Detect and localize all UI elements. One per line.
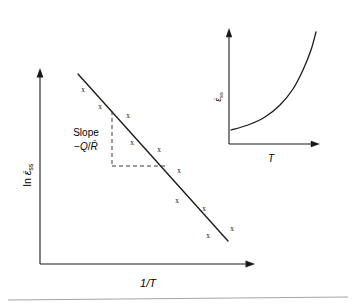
- main-y-axis-label: ln ɛ̇ss: [21, 163, 35, 186]
- inset-plot: ɛ̇ss T: [213, 28, 320, 164]
- inset-exponential-curve: [231, 32, 316, 130]
- inset-x-axis-arrowhead-icon: [311, 141, 320, 147]
- figure-canvas: xxxxxxxxxx ln ɛ̇ss 1/T Slope −Q/R̄ ɛ̇ss …: [0, 0, 354, 308]
- slope-annotation-line2: −Q/R̄: [74, 140, 98, 152]
- main-x-axis-arrowhead-icon: [246, 261, 256, 268]
- slope-triangle: [112, 111, 168, 166]
- data-point-marker: x: [177, 167, 181, 175]
- data-point-marker: x: [175, 197, 179, 205]
- data-point-marker: x: [202, 205, 206, 213]
- data-point-marker: x: [157, 146, 161, 154]
- data-point-marker: x: [206, 232, 210, 240]
- data-point-marker: x: [130, 139, 134, 147]
- data-point-marker: x: [81, 86, 85, 94]
- data-point-marker: x: [98, 103, 102, 111]
- figure-bottom-rule: [8, 297, 348, 300]
- inset-x-axis-label: T: [268, 153, 275, 164]
- main-x-axis-label: 1/T: [140, 277, 157, 289]
- fit-line: [78, 74, 228, 241]
- data-point-marker: x: [230, 225, 234, 233]
- main-y-axis-arrowhead-icon: [37, 68, 44, 78]
- slope-annotation: Slope −Q/R̄: [73, 127, 99, 152]
- figure-root: xxxxxxxxxx ln ɛ̇ss 1/T Slope −Q/R̄ ɛ̇ss …: [0, 0, 354, 308]
- slope-annotation-line1: Slope: [73, 127, 99, 138]
- inset-y-axis-arrowhead-icon: [226, 28, 232, 37]
- inset-y-axis-label: ɛ̇ss: [213, 92, 224, 102]
- data-point-marker: x: [126, 112, 130, 120]
